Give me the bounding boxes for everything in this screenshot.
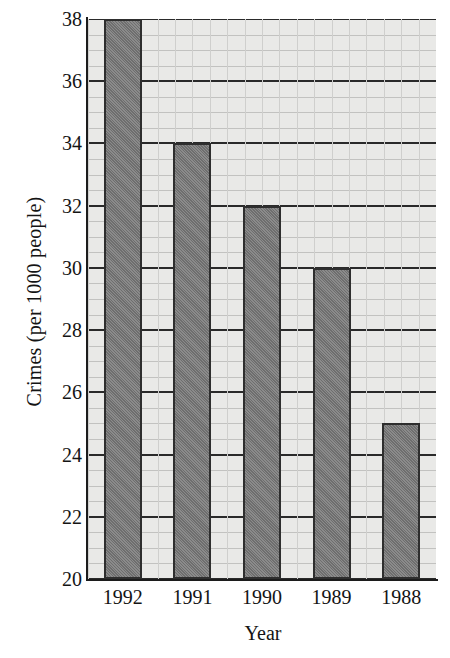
gridline-vertical-minor [297, 19, 298, 579]
plot-area [88, 19, 436, 579]
gridline-vertical-minor [158, 19, 159, 579]
bar-1991 [173, 143, 211, 579]
y-tick-32: 32 [36, 196, 82, 216]
bar-1988 [382, 423, 420, 579]
x-tick-1988: 1988 [366, 586, 436, 608]
y-tick-26: 26 [36, 382, 82, 402]
y-tick-38: 38 [36, 9, 82, 29]
y-tick-36: 36 [36, 71, 82, 91]
y-tick-30: 30 [36, 258, 82, 278]
y-tick-22: 22 [36, 507, 82, 527]
gridline-vertical-minor [366, 19, 367, 579]
y-axis-spine [86, 17, 88, 581]
x-tick-1991: 1991 [158, 586, 228, 608]
y-tick-34: 34 [36, 133, 82, 153]
gridline-vertical-minor [88, 19, 89, 579]
x-axis-spine [86, 579, 438, 581]
y-tick-28: 28 [36, 320, 82, 340]
bar-1992 [104, 19, 142, 579]
y-tick-20: 20 [36, 569, 82, 589]
x-tick-1990: 1990 [227, 586, 297, 608]
x-tick-1989: 1989 [297, 586, 367, 608]
y-axis-tick-labels: 20222426283032343638 [30, 0, 82, 658]
x-tick-1992: 1992 [88, 586, 158, 608]
bar-1989 [313, 268, 351, 579]
gridline-vertical-minor [227, 19, 228, 579]
y-tick-24: 24 [36, 445, 82, 465]
bar-1990 [243, 206, 281, 579]
bar-chart-figure: Crimes (per 1000 people) 202224262830323… [0, 0, 450, 658]
x-axis-title: Year [88, 622, 438, 645]
